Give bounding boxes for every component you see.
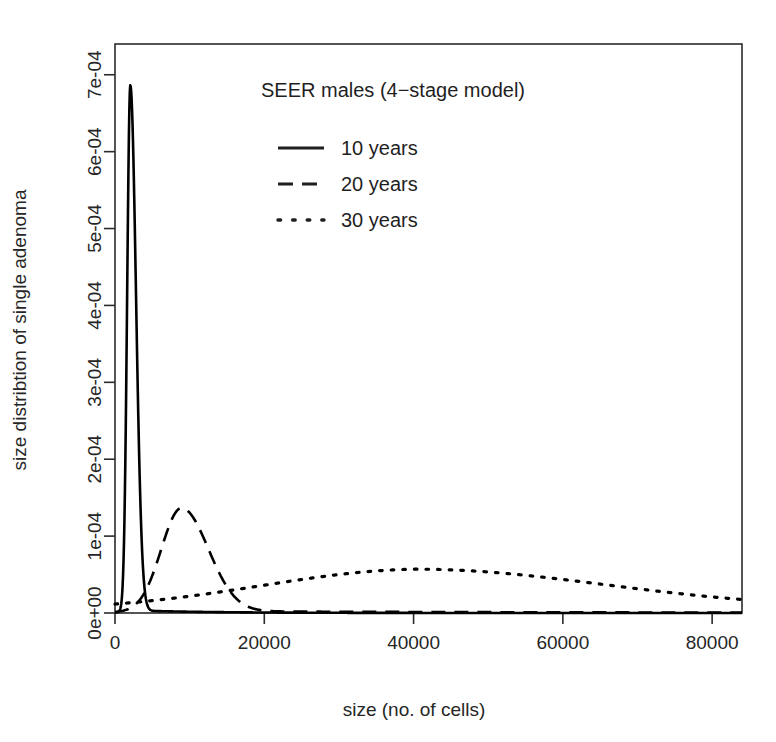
- legend-label: 20 years: [341, 173, 418, 195]
- legend-label: 10 years: [341, 137, 418, 159]
- plot-title: SEER males (4−stage model): [261, 79, 525, 101]
- figure-background: [0, 0, 776, 742]
- x-tick-label: 60000: [536, 632, 589, 653]
- density-plot-svg: 020000400006000080000 0e+001e-042e-043e-…: [0, 0, 776, 742]
- legend-label: 30 years: [341, 209, 418, 231]
- y-tick-label: 5e-04: [84, 204, 105, 253]
- y-tick-label: 2e-04: [84, 434, 105, 483]
- x-tick-label: 40000: [387, 632, 440, 653]
- y-tick-label: 7e-04: [84, 50, 105, 99]
- y-tick-label: 6e-04: [84, 127, 105, 176]
- y-tick-label: 3e-04: [84, 358, 105, 407]
- y-tick-label: 1e-04: [84, 511, 105, 560]
- y-tick-label: 0e+00: [84, 586, 105, 639]
- x-tick-label: 80000: [686, 632, 739, 653]
- chart-figure: 020000400006000080000 0e+001e-042e-043e-…: [0, 0, 776, 742]
- x-axis-title: size (no. of cells): [343, 699, 486, 720]
- x-tick-label: 20000: [238, 632, 291, 653]
- y-tick-label: 4e-04: [84, 281, 105, 330]
- y-axis-title: size distribtion of single adenoma: [9, 189, 30, 470]
- x-tick-label: 0: [110, 632, 121, 653]
